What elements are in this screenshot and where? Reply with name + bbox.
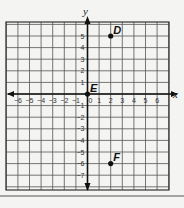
- x-tick-label: 5: [144, 97, 148, 104]
- x-axis-label: x: [172, 88, 178, 100]
- x-tick-label: −5: [26, 97, 34, 104]
- y-tick-label: 3: [81, 56, 85, 63]
- point-label-f: F: [113, 151, 120, 163]
- x-tick-label: 1: [97, 97, 101, 104]
- points: DEF: [85, 24, 121, 167]
- x-tick-label: −3: [49, 97, 57, 104]
- y-tick-label: 5: [81, 33, 85, 40]
- x-tick-label: 0: [89, 97, 93, 104]
- x-tick-label: −2: [60, 97, 68, 104]
- point-label-d: D: [113, 24, 121, 36]
- y-tick-label: −4: [77, 137, 85, 144]
- x-tick-label: 2: [109, 97, 113, 104]
- y-axis-label: y: [82, 5, 88, 17]
- y-tick-label: −6: [77, 160, 85, 167]
- y-tick-label: −3: [77, 125, 85, 132]
- y-tick-label: −5: [77, 149, 85, 156]
- x-tick-label: 3: [120, 97, 124, 104]
- y-tick-label: −7: [77, 172, 85, 179]
- y-tick-label: 4: [81, 44, 85, 51]
- y-arrow-up-icon: [85, 16, 91, 24]
- y-tick-label: 2: [81, 67, 85, 74]
- point-label-e: E: [90, 82, 98, 94]
- x-tick-label: 4: [132, 97, 136, 104]
- x-tick-label: −4: [37, 97, 45, 104]
- x-tick-label: 6: [155, 97, 159, 104]
- coordinate-plane: −6−5−4−3−2−1012345654321−1−2−3−4−5−6−7 D…: [0, 0, 184, 208]
- y-tick-label: 1: [81, 79, 85, 86]
- x-tick-label: −6: [14, 97, 22, 104]
- y-tick-label: −2: [77, 114, 85, 121]
- y-tick-label: −1: [77, 102, 85, 109]
